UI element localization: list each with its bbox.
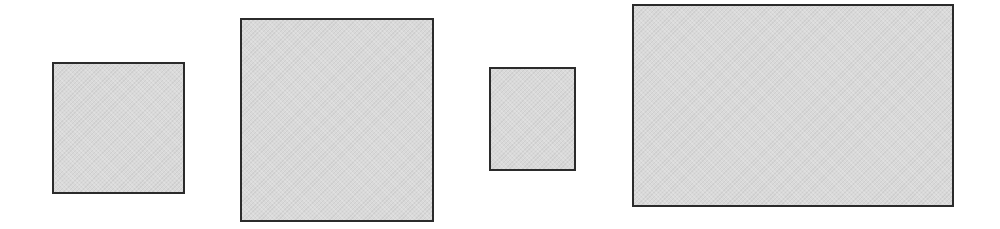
- rectangle-1: [52, 62, 185, 194]
- rectangle-2: [240, 18, 434, 222]
- rectangle-4: [632, 4, 954, 207]
- diagram-canvas: [0, 0, 1000, 229]
- rectangle-3: [489, 67, 576, 171]
